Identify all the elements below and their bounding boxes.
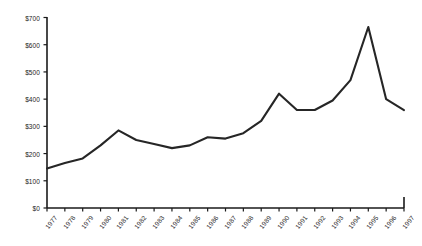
x-axis-ticks	[47, 208, 404, 212]
chart-plot-area	[0, 0, 422, 246]
y-axis-tick-label: $300	[0, 123, 40, 130]
y-axis-tick-label: $600	[0, 41, 40, 48]
data-series-line	[47, 27, 404, 169]
axes-group	[47, 17, 404, 208]
y-axis-tick-label: $700	[0, 14, 40, 21]
y-axis-tick-label: $500	[0, 68, 40, 75]
y-axis-tick-label: $200	[0, 150, 40, 157]
line-chart: $0$100$200$300$400$500$600$700 197719781…	[0, 0, 422, 246]
y-axis-tick-label: $400	[0, 96, 40, 103]
y-axis-tick-label: $0	[0, 205, 40, 212]
y-axis-tick-label: $100	[0, 177, 40, 184]
